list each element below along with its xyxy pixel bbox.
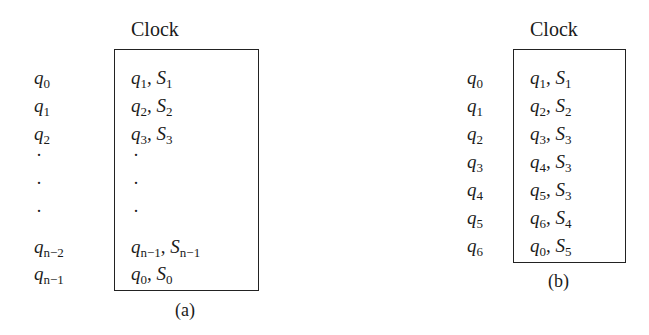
diagram-a-transition-row: q2, S2 — [131, 96, 173, 118]
diagram-a-caption: (a) — [175, 300, 195, 321]
ellipsis-dot: · — [133, 202, 139, 220]
diagram-b-state-q0: q0 — [467, 68, 483, 90]
diagram-b-transition-row: q3, S3 — [530, 124, 572, 146]
diagram-b-transition-row: q6, S4 — [530, 208, 572, 230]
diagram-a-title: Clock — [131, 18, 179, 41]
diagram-a-state-qn-2: qn−2 — [34, 237, 64, 259]
diagram-b-transition-row: q4, S3 — [530, 152, 572, 174]
diagram-b-state-q5: q5 — [467, 208, 483, 230]
diagram-b-state-q1: q1 — [467, 96, 483, 118]
diagram-b-transition-row: q5, S3 — [530, 180, 572, 202]
ellipsis-dot: · — [36, 146, 42, 164]
diagram-a-state-qn-1: qn−1 — [34, 264, 64, 286]
diagram-a-state-q1: q1 — [34, 96, 50, 118]
diagram-a-state-q0: q0 — [34, 68, 50, 90]
diagram-a-transition-row: q1, S1 — [131, 68, 173, 90]
diagram-b-transition-row: q1, S1 — [530, 68, 572, 90]
diagram-b-transition-row: q2, S2 — [530, 96, 572, 118]
diagram-b-transition-row: q0, S5 — [530, 236, 572, 258]
ellipsis-dot: · — [36, 174, 42, 192]
diagram-b-state-q4: q4 — [467, 180, 483, 202]
ellipsis-dot: · — [133, 146, 139, 164]
diagram-a-transition-row: q3, S3 — [131, 124, 173, 146]
diagram-b-state-q6: q6 — [467, 236, 483, 258]
diagram-b-caption: (b) — [548, 271, 569, 292]
diagram-a-state-q2: q2 — [34, 124, 50, 146]
diagram-b-state-q2: q2 — [467, 124, 483, 146]
diagram-b-state-q3: q3 — [467, 152, 483, 174]
diagram-a-transition-row: q0, S0 — [131, 264, 173, 286]
diagram-a-transition-row: qn−1, Sn−1 — [131, 237, 200, 259]
diagram-b-title: Clock — [530, 18, 578, 41]
ellipsis-dot: · — [36, 202, 42, 220]
ellipsis-dot: · — [133, 174, 139, 192]
